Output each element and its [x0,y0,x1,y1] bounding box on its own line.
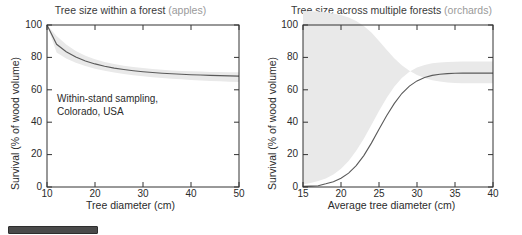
left-xtick-30: 30 [123,188,163,199]
left-confidence-band [47,25,239,82]
left-xtick-10: 10 [27,188,67,199]
left-xtick-40: 40 [171,188,211,199]
left-annotation-line1: Within-stand sampling, [57,92,158,105]
right-xtick-25: 25 [359,188,399,199]
right-yaxis-label: Survival (% of wood volume) [266,57,278,190]
right-xtick-20: 20 [321,188,361,199]
left-annotation-line2: Colorado, USA [57,105,158,118]
left-xtick-50: 50 [219,188,259,199]
right-xtick-35: 35 [435,188,475,199]
right-xtick-30: 30 [397,188,437,199]
right-ytick-100: 100 [268,19,298,30]
right-xaxis-label: Average tree diameter (cm) [261,199,522,211]
left-xaxis-label: Tree diameter (cm) [0,199,261,211]
left-xtick-20: 20 [75,188,115,199]
right-xtick-15: 15 [283,188,323,199]
left-annotation: Within-stand sampling, Colorado, USA [57,92,158,118]
horizontal-scrollbar[interactable] [8,226,98,234]
left-ytick-100: 100 [12,19,42,30]
right-xtick-40: 40 [473,188,513,199]
panel-left: Tree size within a forest (apples) [0,0,261,215]
panel-right: Tree size across multiple forests (orcha… [261,0,522,215]
left-yaxis-label: Survival (% of wood volume) [9,57,21,190]
figure-container: Tree size within a forest (apples) [0,0,522,235]
panel-right-plot [261,0,522,215]
